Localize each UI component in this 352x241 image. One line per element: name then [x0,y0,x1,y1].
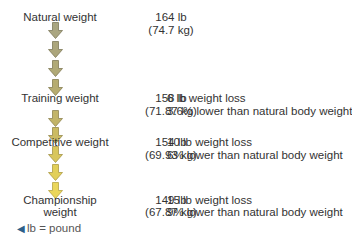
championship-weight-label-line2: weight [0,206,120,219]
competitive-weight-pct: 6% lower than natural body weight [167,149,343,162]
down-arrow-icon [48,146,63,163]
down-arrow-icon [48,41,63,58]
down-arrow-icon [48,164,63,181]
down-arrow-icon [48,110,63,127]
down-arrow-icon [48,60,63,77]
natural-weight-kg: (74.7 kg) [136,24,206,37]
down-arrow-icon [48,22,63,39]
triangle-left-icon: ◀ [17,223,25,234]
training-weight-label: Training weight [0,92,120,105]
natural-weight-lb: 164 lb [136,11,206,24]
training-weight-pct: 3.6% lower than natural body weight [167,105,352,118]
training-weight-loss: 6 lb weight loss [167,92,246,105]
legend: ◀lb = pound [17,222,81,235]
legend-text: lb = pound [27,222,81,234]
championship-weight-pct: 9% lower than natural body weight [167,206,343,219]
competitive-weight-loss: 10 lb weight loss [167,136,252,149]
